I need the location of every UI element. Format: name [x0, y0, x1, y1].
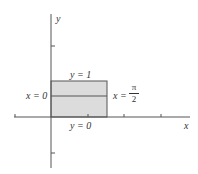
right-boundary-fraction: π 2: [129, 83, 139, 104]
shaded-region: [51, 81, 107, 117]
fraction-denominator: 2: [129, 94, 139, 104]
x-axis-label: x: [184, 121, 188, 131]
top-boundary-label: y = 1: [70, 70, 91, 80]
right-boundary-label: x =: [113, 91, 127, 101]
fraction-numerator: π: [129, 83, 139, 94]
bottom-boundary-label: y = 0: [70, 121, 91, 131]
left-boundary-label: x = 0: [26, 91, 47, 101]
y-axis-label: y: [56, 14, 60, 24]
diagram-canvas: [0, 0, 198, 174]
